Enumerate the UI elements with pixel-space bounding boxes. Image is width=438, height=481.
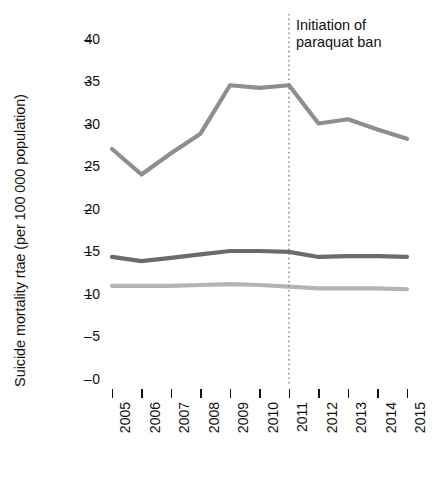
series-line-middle-line bbox=[112, 251, 407, 261]
x-tick-label: 2012 bbox=[325, 402, 339, 472]
x-tick-label: 2005 bbox=[118, 402, 132, 472]
x-tick-mark bbox=[318, 389, 320, 398]
x-tick-mark bbox=[259, 389, 261, 398]
x-tick-label: 2008 bbox=[207, 402, 221, 472]
x-tick-mark bbox=[230, 389, 232, 398]
x-tick-label: 2011 bbox=[295, 402, 309, 472]
x-tick-mark bbox=[141, 389, 143, 398]
x-tick-label: 2010 bbox=[266, 402, 280, 472]
x-tick-mark bbox=[200, 389, 202, 398]
x-tick-mark bbox=[112, 389, 114, 398]
x-tick-label: 2006 bbox=[148, 402, 162, 472]
x-tick-mark bbox=[289, 389, 291, 398]
x-tick-label: 2013 bbox=[354, 402, 368, 472]
x-tick-mark bbox=[171, 389, 173, 398]
x-tick-label: 2009 bbox=[236, 402, 250, 472]
series-line-upper-line bbox=[112, 85, 407, 174]
x-tick-label: 2007 bbox=[177, 402, 191, 472]
series-line-lower-line bbox=[112, 284, 407, 289]
x-tick-mark bbox=[377, 389, 379, 398]
x-tick-label: 2014 bbox=[384, 402, 398, 472]
paraquat-ban-annotation: Initiation of paraquat ban bbox=[296, 17, 381, 51]
x-tick-mark bbox=[348, 389, 350, 398]
x-tick-label: 2015 bbox=[413, 402, 427, 472]
x-tick-mark bbox=[407, 389, 409, 398]
chart-figure: Suicide mortality rtae (per 100 000 popu… bbox=[0, 0, 438, 481]
